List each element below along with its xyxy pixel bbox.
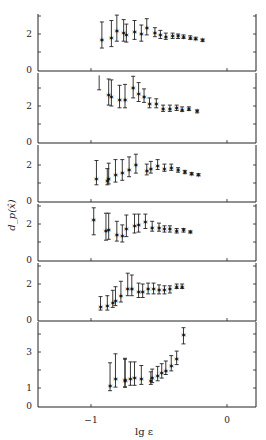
data-point-star: ✶: [131, 374, 138, 383]
data-point-star: ✶: [138, 375, 145, 384]
data-point-star: ✶: [108, 93, 115, 102]
x-tick-label-0: 0: [224, 415, 230, 425]
data-point-star: ✶: [194, 107, 201, 116]
y-tick-label: 0: [26, 65, 32, 75]
data-point-star: ✶: [175, 166, 182, 175]
data-point-star: ✶: [173, 227, 180, 236]
data-point-star: ✶: [180, 331, 187, 340]
data-point-star: ✶: [199, 36, 206, 45]
y-tick-label: 2: [26, 160, 32, 170]
data-point-star: ✶: [179, 106, 186, 115]
data-point-star: ✶: [143, 24, 150, 33]
data-point-star: ✶: [122, 96, 129, 105]
data-point-star: ✶: [187, 228, 194, 237]
x-tick-label-neg1: −1: [84, 415, 97, 425]
panel-4: 02✶✶✶✶✶✶✶✶✶✶✶✶✶✶✶✶: [26, 204, 256, 265]
data-point-star: ✶: [180, 33, 187, 42]
data-point-star: ✶: [123, 225, 130, 234]
data-point-star: ✶: [126, 166, 133, 175]
y-tick-label: 0: [26, 196, 32, 206]
x-axis: −1 0 lg ε: [84, 415, 230, 437]
data-point-star: ✶: [154, 162, 161, 171]
data-point-star: ✶: [118, 292, 125, 301]
data-point-star: ✶: [180, 226, 187, 235]
data-point-star: ✶: [149, 224, 156, 233]
data-point-star: ✶: [192, 35, 199, 44]
data-point-star: ✶: [167, 225, 174, 234]
figure: 02✶✶✶✶✶✶✶✶✶✶✶✶✶✶✶✶✶02✶✶✶✶✶✶✶✶✶✶✶✶✶✶✶02✶✶…: [0, 0, 266, 440]
y-tick-label: 0: [26, 315, 32, 325]
data-point-star: ✶: [195, 171, 202, 180]
panel-6: 013✶✶✶✶✶✶✶✶✶✶✶✶✶✶✶: [26, 322, 256, 411]
data-point-star: ✶: [90, 216, 97, 225]
data-point-star: ✶: [97, 303, 104, 312]
x-axis-label: lg ε: [135, 426, 153, 437]
data-point-star: ✶: [93, 175, 100, 184]
data-point-star: ✶: [128, 285, 135, 294]
data-point-star: ✶: [188, 170, 195, 179]
data-point-star: ✶: [123, 31, 130, 40]
data-point-star: ✶: [113, 27, 120, 36]
data-point-star: ✶: [119, 169, 126, 178]
panel-3: 02✶✶✶✶✶✶✶✶✶✶✶✶✶✶✶✶: [26, 145, 256, 206]
y-tick-label: 2: [26, 219, 32, 229]
y-tick-label: 0: [26, 137, 32, 147]
y-tick-label: 3: [26, 347, 32, 357]
data-point-star: ✶: [112, 375, 119, 384]
data-point-star: ✶: [142, 218, 149, 227]
data-point-star: ✶: [153, 100, 160, 109]
y-tick-label: 0: [26, 255, 32, 265]
data-point-star: ✶: [105, 175, 112, 184]
data-point-star: ✶: [181, 168, 188, 177]
data-point-star: ✶: [146, 100, 153, 109]
panel-2: 02✶✶✶✶✶✶✶✶✶✶✶✶✶✶✶: [26, 73, 256, 147]
data-point-star: ✶: [168, 164, 175, 173]
data-point-star: ✶: [167, 105, 174, 114]
panel-5: 02✶✶✶✶✶✶✶✶✶✶✶✶✶✶✶✶: [26, 263, 256, 325]
y-tick-label: 2: [26, 101, 32, 111]
data-point-star: ✶: [105, 226, 112, 235]
data-point-star: ✶: [133, 161, 140, 170]
data-point-star: ✶: [147, 165, 154, 174]
data-point-star: ✶: [112, 171, 119, 180]
y-tick-label: 0: [26, 401, 32, 411]
y-axis-label: d_p(x̂): [6, 199, 18, 230]
data-point-star: ✶: [135, 221, 142, 230]
data-point-star: ✶: [131, 28, 138, 37]
data-point-star: ✶: [173, 355, 180, 364]
data-point-star: ✶: [161, 165, 168, 174]
panels-group: 02✶✶✶✶✶✶✶✶✶✶✶✶✶✶✶✶✶02✶✶✶✶✶✶✶✶✶✶✶✶✶✶✶02✶✶…: [26, 14, 256, 411]
data-point-star: ✶: [162, 33, 169, 42]
y-tick-label: 2: [26, 29, 32, 39]
y-tick-label: 2: [26, 279, 32, 289]
data-point-star: ✶: [99, 36, 106, 45]
y-tick-label: 1: [26, 383, 32, 393]
data-point-star: ✶: [186, 105, 193, 114]
data-point-star: ✶: [167, 285, 174, 294]
data-point-star: ✶: [160, 105, 167, 114]
panel-1: 02✶✶✶✶✶✶✶✶✶✶✶✶✶✶✶✶✶: [26, 14, 256, 75]
data-point-star: ✶: [179, 283, 186, 292]
